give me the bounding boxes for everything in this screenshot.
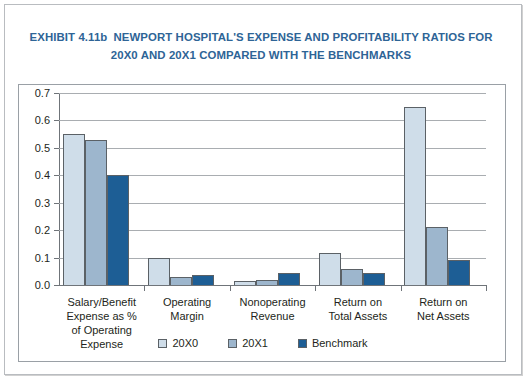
category-label: Return onTotal Assets	[315, 295, 400, 323]
y-axis-tick	[54, 230, 59, 231]
x-axis-line	[59, 285, 487, 286]
bar-group	[319, 93, 385, 285]
category-label-line: Operating	[144, 295, 229, 309]
bar-benchmark	[192, 275, 214, 285]
bar-benchmark	[363, 273, 385, 285]
category-label-line: Salary/Benefit	[59, 295, 144, 309]
legend-item-benchmark: Benchmark	[298, 337, 368, 349]
exhibit-number: EXHIBIT 4.11b	[30, 31, 108, 43]
bar-group	[404, 93, 470, 285]
y-axis-tick	[54, 175, 59, 176]
category-label-line: Margin	[144, 309, 229, 323]
category-label-line: Net Assets	[401, 309, 486, 323]
bar-20x0	[63, 134, 85, 285]
exhibit-page: EXHIBIT 4.11bNEWPORT HOSPITAL'S EXPENSE …	[0, 0, 528, 381]
chart-legend: 20X0 20X1 Benchmark	[19, 337, 507, 349]
legend-swatch-icon-20x0	[158, 339, 167, 348]
bar-20x0	[234, 281, 256, 285]
y-axis-tick	[54, 285, 59, 286]
category-separator	[486, 285, 487, 291]
bar-20x1	[426, 227, 448, 285]
chart-frame: 0.00.10.20.30.40.50.60.7 Salary/BenefitE…	[18, 84, 506, 362]
y-axis-label: 0.2	[35, 224, 50, 236]
chart-title-line-2: 20X0 AND 20X1 COMPARED WITH THE BENCHMAR…	[22, 46, 500, 64]
bar-benchmark	[448, 260, 470, 285]
bar-20x0	[404, 107, 426, 285]
y-axis-tick	[54, 93, 59, 94]
y-axis-tick	[54, 120, 59, 121]
category-label-line: of Operating	[59, 323, 144, 337]
y-axis-label: 0.6	[35, 114, 50, 126]
bar-group	[148, 93, 214, 285]
bar-20x1	[85, 140, 107, 285]
plot-area: 0.00.10.20.30.40.50.60.7	[59, 93, 486, 285]
bar-group	[234, 93, 300, 285]
y-axis-label: 0.0	[35, 279, 50, 291]
bar-20x1	[170, 277, 192, 285]
category-label-line: Return on	[315, 295, 400, 309]
y-axis-label: 0.3	[35, 197, 50, 209]
legend-item-20x1: 20X1	[228, 337, 268, 349]
y-axis-tick	[54, 203, 59, 204]
category-label: OperatingMargin	[144, 295, 229, 323]
legend-label-20x1: 20X1	[242, 337, 268, 349]
legend-swatch-icon-20x1	[228, 339, 237, 348]
category-separator	[315, 285, 316, 291]
bar-20x0	[319, 253, 341, 285]
y-axis-label: 0.4	[35, 169, 50, 181]
chart-title-line-1: NEWPORT HOSPITAL'S EXPENSE AND PROFITABI…	[113, 31, 492, 43]
category-separator	[230, 285, 231, 291]
bar-20x0	[148, 258, 170, 285]
bar-20x1	[341, 269, 363, 285]
y-axis-label: 0.7	[35, 87, 50, 99]
category-label-line: Return on	[401, 295, 486, 309]
legend-item-20x0: 20X0	[158, 337, 198, 349]
category-label-line: Expense as %	[59, 309, 144, 323]
y-axis-tick	[54, 148, 59, 149]
category-label-line: Total Assets	[315, 309, 400, 323]
bar-group	[63, 93, 129, 285]
category-separator	[401, 285, 402, 291]
y-axis-tick	[54, 258, 59, 259]
category-label: Return onNet Assets	[401, 295, 486, 323]
y-axis-label: 0.1	[35, 252, 50, 264]
category-separator	[144, 285, 145, 291]
y-axis-label: 0.5	[35, 142, 50, 154]
bar-20x1	[256, 280, 278, 285]
bar-benchmark	[107, 175, 129, 285]
chart-title: EXHIBIT 4.11bNEWPORT HOSPITAL'S EXPENSE …	[22, 28, 500, 64]
legend-label-20x0: 20X0	[172, 337, 198, 349]
category-label-line: Nonoperating	[230, 295, 315, 309]
category-label-line: Revenue	[230, 309, 315, 323]
category-label: NonoperatingRevenue	[230, 295, 315, 323]
legend-swatch-icon-benchmark	[298, 339, 307, 348]
legend-label-benchmark: Benchmark	[312, 337, 368, 349]
bar-benchmark	[278, 273, 300, 285]
